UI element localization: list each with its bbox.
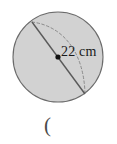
diameter-dimension-label: 22 cm	[61, 44, 97, 60]
sphere-drawing	[0, 0, 117, 144]
stray-parenthesis-mark: (	[44, 113, 51, 137]
center-point-dot	[55, 54, 60, 59]
sphere-figure: 22 cm (	[0, 0, 117, 144]
